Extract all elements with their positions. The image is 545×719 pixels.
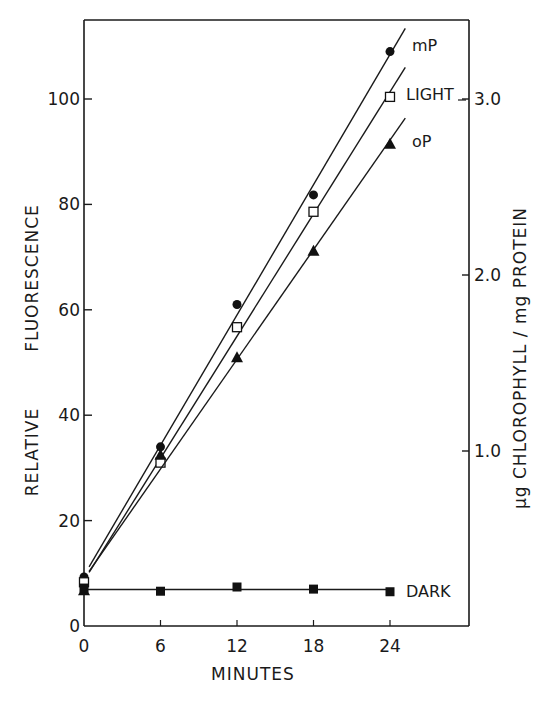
y-axis-title-relative: RELATIVE <box>22 408 42 497</box>
series-group: mPLIGHToPDARK <box>78 28 466 600</box>
triangle-marker <box>384 138 396 149</box>
trend-line <box>89 118 405 571</box>
x-tick-label: 12 <box>226 636 248 656</box>
y-tick-label: 100 <box>48 89 80 109</box>
filled-square-marker <box>309 585 318 594</box>
plot-frame <box>84 20 469 626</box>
series-light: LIGHT <box>80 67 455 586</box>
series-dark: DARK <box>80 582 452 601</box>
series-op: oP <box>78 118 432 595</box>
right-y-tick-label: 3.0 <box>474 89 501 109</box>
triangle-marker <box>308 245 320 256</box>
open-square-marker <box>386 92 395 101</box>
x-tick-label: 24 <box>379 636 401 656</box>
y-axis-title-fluorescence: FLUORESCENCE <box>22 204 42 352</box>
open-square-marker <box>309 207 318 216</box>
y-axis-ticks: 020406080100 <box>48 89 92 636</box>
right-y-axis-title: µg CHLOROPHYLL / mg PROTEIN <box>510 207 530 509</box>
y-tick-label: 20 <box>58 511 80 531</box>
series-label-op: oP <box>412 132 432 151</box>
circle-marker <box>309 190 318 199</box>
trend-line <box>89 67 405 572</box>
x-axis-title: MINUTES <box>211 664 295 684</box>
circle-marker <box>233 300 242 309</box>
y-tick-label: 0 <box>69 616 80 636</box>
filled-square-marker <box>156 587 165 596</box>
chart: 020406080100 1.02.03.0 06121824 MINUTES … <box>0 0 545 719</box>
right-y-tick-label: 2.0 <box>474 265 501 285</box>
right-y-axis-ticks: 1.02.03.0 <box>462 89 501 461</box>
series-mp: mP <box>80 28 438 581</box>
series-label-mp: mP <box>412 36 438 55</box>
series-label-dark: DARK <box>406 582 451 601</box>
filled-square-marker <box>233 583 242 592</box>
x-tick-label: 18 <box>303 636 325 656</box>
circle-marker <box>386 47 395 56</box>
trend-line <box>89 28 405 566</box>
right-y-tick-label: 1.0 <box>474 441 501 461</box>
series-label-light: LIGHT <box>406 85 454 104</box>
filled-square-marker <box>386 587 395 596</box>
x-tick-label: 6 <box>155 636 166 656</box>
x-tick-label: 0 <box>79 636 90 656</box>
filled-square-marker <box>80 584 89 593</box>
y-tick-label: 40 <box>58 405 80 425</box>
open-square-marker <box>233 323 242 332</box>
y-tick-label: 80 <box>58 194 80 214</box>
y-tick-label: 60 <box>58 300 80 320</box>
